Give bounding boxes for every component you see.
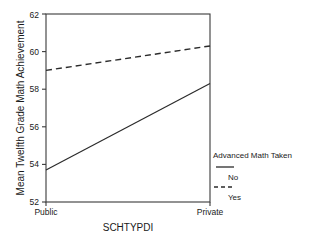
chart-container: 52 54 56 58 60 62 Public Private SCHTYPD…	[0, 0, 314, 245]
y-tick-label-62: 62	[30, 10, 40, 20]
x-axis-title: SCHTYPDI	[103, 222, 154, 233]
series-line-yes	[46, 46, 210, 70]
plot-frame	[46, 14, 210, 202]
y-tick-label-56: 56	[30, 122, 40, 132]
y-tick-label-54: 54	[30, 159, 40, 169]
legend-label-yes: Yes	[228, 193, 241, 202]
y-axis-title: Mean Twelfth Grade Math Achievement	[15, 20, 26, 195]
y-tick-label-52: 52	[30, 197, 40, 207]
line-chart: 52 54 56 58 60 62 Public Private SCHTYPD…	[0, 0, 314, 245]
series-line-no	[46, 84, 210, 170]
legend-label-no: No	[228, 173, 239, 182]
x-tick-label-private: Private	[197, 207, 224, 217]
legend-title: Advanced Math Taken	[213, 151, 292, 160]
y-tick-label-60: 60	[30, 47, 40, 57]
x-tick-label-public: Public	[34, 207, 58, 217]
y-tick-label-58: 58	[30, 84, 40, 94]
